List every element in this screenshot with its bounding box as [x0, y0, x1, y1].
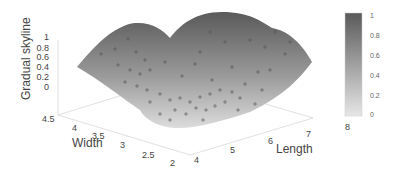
svg-text:4.5: 4.5: [42, 114, 55, 124]
svg-text:0.6: 0.6: [370, 52, 380, 59]
svg-text:0: 0: [370, 111, 374, 118]
surface-plot: Gradual skyline 1 0.8 0.6 0.4 0.2 0 4.5 …: [0, 0, 396, 174]
svg-text:3: 3: [120, 140, 125, 150]
svg-text:4: 4: [72, 123, 77, 133]
svg-text:8: 8: [345, 122, 350, 132]
svg-text:0: 0: [44, 82, 49, 92]
svg-text:4: 4: [194, 155, 199, 165]
svg-text:0.2: 0.2: [370, 92, 380, 99]
svg-text:1: 1: [370, 12, 374, 19]
y-axis-label: Width: [72, 136, 103, 150]
z-axis-label: Gradual skyline: [19, 17, 33, 100]
svg-text:7: 7: [306, 129, 311, 139]
x-axis-label: Length: [276, 142, 313, 156]
svg-text:5: 5: [230, 145, 235, 155]
x-axis-ticks: 4 5 6 7 8: [194, 122, 350, 165]
svg-text:2: 2: [170, 158, 175, 168]
colorbar: 1 0.8 0.6 0.4 0.2 0: [345, 12, 380, 118]
svg-text:0.6: 0.6: [36, 52, 49, 62]
svg-text:0.4: 0.4: [36, 62, 49, 72]
svg-text:0.4: 0.4: [370, 72, 380, 79]
svg-text:2.5: 2.5: [142, 150, 155, 160]
surface: [77, 12, 312, 128]
svg-text:6: 6: [268, 136, 273, 146]
z-axis-ticks: 1 0.8 0.6 0.4 0.2 0: [36, 32, 49, 92]
svg-text:0.2: 0.2: [36, 72, 49, 82]
svg-text:1: 1: [44, 32, 49, 42]
svg-text:0.8: 0.8: [370, 32, 380, 39]
